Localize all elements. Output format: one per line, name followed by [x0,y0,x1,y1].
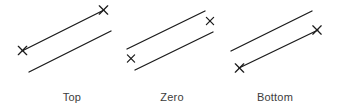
left-x-mark-zero [127,55,134,62]
upper-line-zero [127,11,205,49]
line-pair-group-zero: Zero [127,11,214,103]
lower-line-bottom [239,30,318,68]
upper-line-bottom [231,11,312,51]
line-marker-placement-figure: TopZeroBottom [0,0,337,110]
left-x-mark-bottom [235,64,243,72]
right-x-mark-top [99,6,107,14]
lower-line-zero [135,32,213,70]
caption-bottom: Bottom [257,91,293,103]
right-x-mark-zero [206,17,213,24]
right-x-mark-bottom [313,26,321,34]
diagram-canvas: TopZeroBottom [0,0,337,110]
line-pair-group-top: Top [18,6,111,103]
caption-top: Top [63,91,81,103]
diagram-groups: TopZeroBottom [18,6,321,103]
line-pair-group-bottom: Bottom [231,11,321,103]
caption-zero: Zero [160,91,183,103]
left-x-mark-top [18,46,26,54]
upper-line-top [22,10,104,51]
lower-line-top [29,31,111,72]
